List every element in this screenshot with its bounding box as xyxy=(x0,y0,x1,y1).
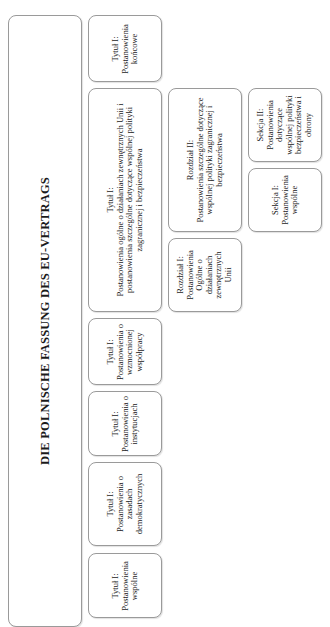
chapter-body: Postanowienia Ogólne o działaniach zewnę… xyxy=(186,243,234,307)
title-box-democratic-principles: Tytuł I: Postanowienia o zasadach demokr… xyxy=(88,462,162,546)
chapter-body: Postanowienia szczególne dotyczące wspól… xyxy=(195,96,224,224)
title-body: Postanowienia ogólne o działaniach zewnę… xyxy=(115,100,144,300)
title-box-common-provisions: Tytuł I: Postanowienia wspólne xyxy=(88,553,162,618)
chapter-box-general-external-action: Rozdział I: Postanowienia Ogólne o dział… xyxy=(168,238,242,312)
section-box-csdp: Sekcja II: Postanowienia dotyczące wspól… xyxy=(248,88,322,162)
title-body: Postanowienia o wzmocnionej współpracy xyxy=(115,321,144,383)
title-body: Postanowienia o instytucjach xyxy=(120,394,139,454)
title-box-enhanced-cooperation: Tytuł I: Postanowienia o wzmocnionej wsp… xyxy=(88,318,162,385)
diagram-title-box: DIE POLNISCHE FASSUNG DES EU-VERTRAGS xyxy=(8,15,82,627)
title-box-external-action: Tytuł I: Postanowienia ogólne o działani… xyxy=(88,88,162,312)
diagram-title: DIE POLNISCHE FASSUNG DES EU-VERTRAGS xyxy=(38,177,52,465)
chapter-box-cfsp: Rozdział II: Postanowienia szczególne do… xyxy=(168,88,242,232)
section-box-common-provisions: Sekcja I: Postanowienia wspólne xyxy=(248,168,322,232)
title-body: Postanowienia o zasadach demokratycznych xyxy=(115,468,144,540)
title-box-final-provisions: Tytuł I: Postanowienia końcowe xyxy=(88,15,162,82)
section-body: Postanowienia wspólne xyxy=(280,171,299,229)
title-body: Postanowienia wspólne xyxy=(120,556,139,616)
title-box-institutions: Tytuł I: Postanowienia o instytucjach xyxy=(88,391,162,456)
section-body: Postanowienia dotyczące wspólnej polityk… xyxy=(266,92,314,158)
title-body: Postanowienia końcowe xyxy=(120,18,139,80)
